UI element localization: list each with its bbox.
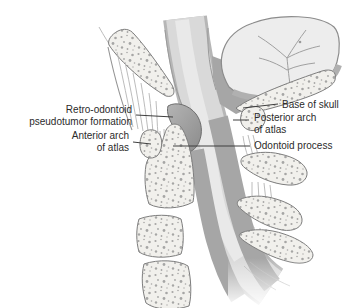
spinous-process-c2 bbox=[241, 152, 307, 185]
label-line: of atlas bbox=[72, 142, 129, 154]
fade-overlay bbox=[228, 258, 356, 308]
label-line: of atlas bbox=[254, 124, 316, 136]
label-anterior-arch-of-atlas: Anterior arch of atlas bbox=[72, 130, 129, 153]
label-line: Odontoid process bbox=[254, 140, 332, 152]
folia-dot bbox=[299, 41, 302, 44]
anatomy-drawing bbox=[0, 0, 356, 308]
label-base-of-skull: Base of skull bbox=[282, 99, 339, 111]
label-line: Base of skull bbox=[282, 99, 339, 111]
label-line: Retro-odontoid bbox=[29, 104, 132, 116]
label-retro-odontoid-pseudotumor: Retro-odontoid pseudotumor formation bbox=[29, 104, 132, 127]
label-odontoid-process: Odontoid process bbox=[254, 140, 332, 152]
medical-illustration: Retro-odontoid pseudotumor formation Ant… bbox=[0, 0, 356, 308]
vertebral-body-c4 bbox=[142, 261, 191, 308]
label-line: pseudotumor formation bbox=[29, 116, 132, 128]
label-line: Posterior arch bbox=[254, 112, 316, 124]
vertebral-body-c3 bbox=[137, 215, 184, 257]
label-line: Anterior arch bbox=[72, 130, 129, 142]
leader-retro-odontoid bbox=[136, 115, 173, 117]
label-posterior-arch-of-atlas: Posterior arch of atlas bbox=[254, 112, 316, 135]
